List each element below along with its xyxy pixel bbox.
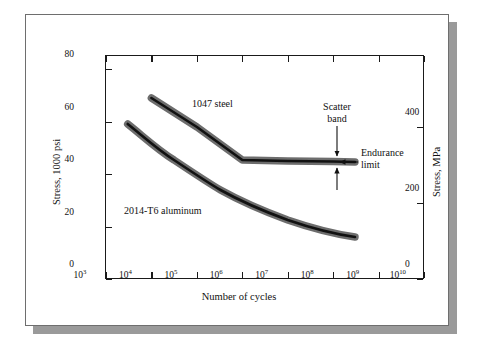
xtick-bottom-3 [242,272,243,278]
y-axis-title-left: Stress, 1000 psi [51,139,62,205]
annotation-endurance-limit-line1: Endurance [361,147,404,158]
ytick-left-40 [106,174,112,175]
y-axis-title-right: Stress, MPa [431,147,442,197]
ytick-left-80 [106,69,112,70]
ytick-left-20 [106,227,112,228]
xtick-label-0: 103 [74,269,87,281]
plot-frame: 1047 steel 2014-T6 aluminum Scatter band… [105,55,424,279]
xtick-top-6 [379,56,380,62]
annotation-endurance-limit: Endurance limit [361,147,404,170]
xtick-bottom-5 [333,272,334,278]
xtick-label-4: 107 [255,269,268,281]
xtick-label-6: 109 [346,269,359,281]
xtick-top-5 [333,56,334,62]
ytick-label-left-80: 80 [60,50,74,60]
curve-2014t6-aluminum-band [128,124,355,237]
xtick-top-7 [424,56,425,62]
xtick-bottom-4 [288,272,289,278]
ytick-label-left-20: 20 [60,208,74,218]
xtick-label-1: 104 [119,269,132,281]
ytick-left-0 [106,279,112,280]
xtick-label-7: 1010 [390,269,406,281]
annotation-scatter-band: Scatter band [323,101,351,124]
xtick-top-3 [242,56,243,62]
ytick-label-left-40: 40 [60,155,74,165]
figure-card: 1047 steel 2014-T6 aluminum Scatter band… [25,14,449,326]
xtick-top-0 [106,56,107,62]
ytick-label-right-0: 0 [405,260,410,270]
xtick-top-1 [151,56,152,62]
ytick-left-60 [106,122,112,123]
xtick-label-2: 105 [164,269,177,281]
series-label-aluminum: 2014-T6 aluminum [124,205,202,217]
curve-2014t6-aluminum-core [128,124,355,237]
xtick-label-3: 106 [210,269,223,281]
annotation-endurance-limit-line2: limit [361,159,380,170]
x-axis-title: Number of cycles [202,291,277,302]
xtick-exp-1: 4 [128,268,131,275]
xtick-top-2 [197,56,198,62]
ytick-right-400 [417,127,423,128]
ytick-label-left-60: 60 [60,103,74,113]
annotation-scatter-band-line1: Scatter [323,101,351,112]
xtick-exp-5: 8 [310,268,313,275]
xtick-top-4 [288,56,289,62]
ytick-label-right-400: 400 [405,108,419,118]
series-label-steel: 1047 steel [192,98,233,110]
xtick-bottom-2 [197,272,198,278]
ytick-label-left-0: 0 [60,260,74,270]
ytick-right-200 [417,203,423,204]
figure-page: 1047 steel 2014-T6 aluminum Scatter band… [0,0,478,354]
ytick-label-right-200: 200 [405,184,419,194]
xtick-label-5: 108 [301,269,314,281]
xtick-exp-0: 3 [83,268,86,275]
xtick-bottom-6 [379,272,380,278]
xtick-bottom-0 [106,272,107,278]
xtick-exp-2: 5 [174,268,177,275]
xtick-exp-3: 6 [219,268,222,275]
xtick-bottom-1 [151,272,152,278]
ytick-right-0 [417,279,423,280]
xtick-bottom-7 [424,272,425,278]
annotation-scatter-band-line2: band [327,113,346,124]
xtick-exp-4: 7 [265,268,268,275]
xtick-exp-6: 9 [356,268,359,275]
